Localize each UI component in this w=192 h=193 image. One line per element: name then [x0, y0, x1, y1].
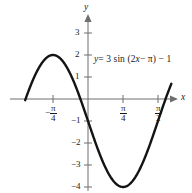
- y-tick-label-3: 3: [75, 28, 80, 37]
- fraction-numerator: π: [120, 104, 127, 113]
- y-axis-label: y: [84, 3, 88, 13]
- y-tick-label-neg4: −4: [71, 182, 81, 191]
- y-tick-label-neg3: −3: [71, 160, 81, 169]
- equation-label: y= 3 sin (2x− π) − 1: [94, 55, 171, 65]
- fraction-stack: π 2: [155, 104, 162, 123]
- fraction-denominator: 4: [120, 113, 127, 123]
- coordinate-plane: [0, 0, 192, 193]
- y-tick-label-neg2: −2: [71, 138, 81, 147]
- y-axis-arrow: [84, 14, 91, 22]
- fraction-denominator: 4: [50, 113, 57, 123]
- x-axis-label: x: [181, 93, 185, 103]
- y-tick-label-1: 1: [75, 72, 80, 81]
- fraction-denominator: 2: [155, 113, 162, 123]
- equation-rhs: − π) − 1: [140, 54, 171, 64]
- fraction-numerator: π: [155, 104, 162, 113]
- fraction-stack: π 4: [120, 104, 127, 123]
- equation-mid: = 3 sin (2: [98, 54, 135, 64]
- y-tick-label-neg1: −1: [71, 116, 81, 125]
- x-tick-label-pi-over-4: π 4: [120, 104, 127, 123]
- y-tick-label-2: 2: [75, 50, 80, 59]
- trig-graph-figure: 3 2 1 −1 −2 −3 −4 − π 4 π 4 π 2 y x y= 3…: [0, 0, 192, 193]
- x-tick-label-neg-pi-over-4: − π 4: [45, 104, 57, 123]
- fraction-stack: π 4: [50, 104, 57, 123]
- x-axis-arrow: [170, 95, 178, 102]
- fraction-numerator: π: [50, 104, 57, 113]
- x-tick-label-pi-over-2: π 2: [155, 104, 162, 123]
